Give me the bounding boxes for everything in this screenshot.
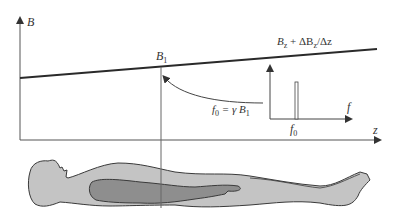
patient-body [28,160,370,207]
b1-label-sub: 1 [163,56,167,65]
larmor-equation: f0 = γ B1 [212,104,250,118]
gradient-field-line [20,49,377,78]
spectrum-peak [295,82,298,119]
gradient-label-delta: + ΔB [287,35,313,47]
inset-tick-label: f0 [290,123,297,138]
x-axis-label: z [373,124,378,136]
diagram-canvas [0,0,406,218]
eq-sub: 1 [246,109,250,118]
gradient-label-end: /Δz [317,35,332,47]
b1-label: B1 [156,50,167,65]
body-outline [28,160,370,207]
y-axis-label: B [27,16,34,28]
gradient-label-b: B [277,35,284,47]
gradient-label: Bz + ΔBz/Δz [277,36,332,50]
inset-axis-label: f [347,101,350,113]
eq-rest: = γ B [219,103,246,115]
mri-gradient-diagram: B z B1 Bz + ΔBz/Δz f0 = γ B1 f f0 [0,0,406,218]
inset-tick-sub: 0 [293,129,297,138]
curved-arrow [165,78,263,103]
